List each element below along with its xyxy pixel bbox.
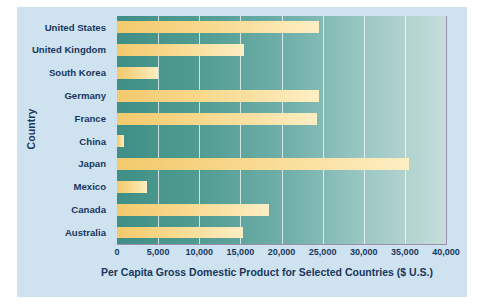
bar-row — [117, 39, 446, 62]
y-axis-label: United States — [23, 16, 111, 39]
bar-rows — [117, 16, 446, 244]
y-axis-label: Japan — [23, 153, 111, 176]
bar — [117, 44, 244, 56]
bar-row — [117, 130, 446, 153]
y-axis-category-labels: United StatesUnited KingdomSouth KoreaGe… — [23, 16, 111, 244]
bar — [117, 90, 319, 102]
bar-row — [117, 198, 446, 221]
y-axis-label: Germany — [23, 84, 111, 107]
bar — [117, 181, 147, 193]
x-axis-tick: 15,000 — [227, 247, 255, 257]
bar-row — [117, 176, 446, 199]
x-axis-tick: 30,000 — [350, 247, 378, 257]
x-axis-tick: 5,000 — [147, 247, 170, 257]
bar-row — [117, 153, 446, 176]
y-axis-label: Australia — [23, 221, 111, 244]
y-axis-label: France — [23, 107, 111, 130]
bar-row — [117, 107, 446, 130]
bar — [117, 158, 409, 170]
x-axis-tick: 20,000 — [268, 247, 296, 257]
bar-row — [117, 62, 446, 85]
chart-card: Country United StatesUnited KingdomSouth… — [17, 7, 467, 297]
y-axis-label: United Kingdom — [23, 39, 111, 62]
bar — [117, 227, 243, 239]
bar — [117, 21, 319, 33]
y-axis-label: Canada — [23, 198, 111, 221]
x-axis-title: Per Capita Gross Domestic Product for Se… — [77, 266, 457, 278]
plot-area — [117, 16, 447, 245]
y-axis-label: South Korea — [23, 62, 111, 85]
bar — [117, 204, 269, 216]
bar — [117, 67, 158, 79]
bar-row — [117, 16, 446, 39]
x-axis-tick: 40,000 — [432, 247, 460, 257]
x-axis-tick: 10,000 — [185, 247, 213, 257]
gridline — [446, 16, 447, 244]
x-axis-tick: 25,000 — [309, 247, 337, 257]
bar-row — [117, 84, 446, 107]
y-axis-label: Mexico — [23, 176, 111, 199]
bar-row — [117, 221, 446, 244]
x-axis-tick-labels: 05,00010,00015,00020,00025,00030,00035,0… — [117, 247, 446, 260]
x-axis-tick: 35,000 — [391, 247, 419, 257]
y-axis-label: China — [23, 130, 111, 153]
bar — [117, 113, 317, 125]
x-axis-tick: 0 — [114, 247, 119, 257]
bar — [117, 135, 124, 147]
